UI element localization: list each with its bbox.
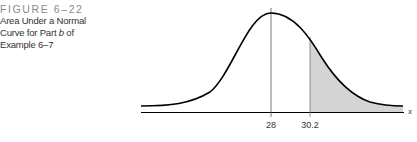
- bell-curve: [141, 13, 403, 106]
- mean-label: 28: [266, 120, 276, 130]
- cutoff-label: 30.2: [301, 120, 319, 130]
- axis-label: x: [407, 106, 412, 116]
- shaded-area: [310, 38, 403, 112]
- normal-curve-diagram: 28 30.2 x: [0, 0, 417, 142]
